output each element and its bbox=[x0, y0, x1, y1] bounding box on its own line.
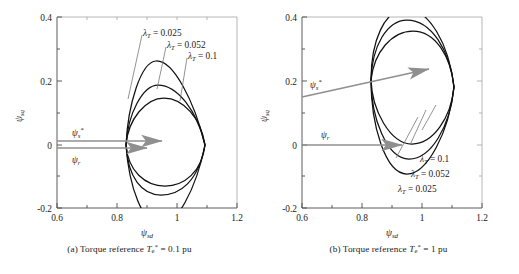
caption-prefix: (a) Torque reference bbox=[67, 244, 146, 254]
psi-sub: r bbox=[327, 134, 330, 141]
label-psi-r-a: ψr bbox=[72, 155, 81, 166]
x-tick-label: 0.6 bbox=[296, 213, 308, 223]
x-tick-label: 1.2 bbox=[231, 213, 243, 223]
y-tick-labels-b: 0.4 0.2 0 -0.2 bbox=[282, 13, 297, 214]
psi-sub: s bbox=[316, 84, 319, 91]
panel-b: 0.4 0.2 0 -0.2 0.6 0.8 1 1.2 ψsq ψsd bbox=[259, 0, 518, 274]
annotation-lambda-0052-b: λT = 0.052 bbox=[410, 169, 450, 180]
annotation-lambda-0025-a: λT = 0.025 bbox=[142, 28, 182, 39]
lambda-value: 0.1 bbox=[438, 154, 450, 164]
x-tick-label: 0.6 bbox=[51, 213, 63, 223]
y-axis-sub: sq bbox=[18, 109, 25, 116]
curve-lambda-0052-a bbox=[126, 85, 205, 195]
y-ticks-a bbox=[57, 17, 62, 208]
annotation-lambda-0025-b: λT = 0.025 bbox=[397, 184, 437, 195]
panel-a: 0.4 0.2 0 -0.2 0.6 0.8 1 1.2 ψsq ψsd bbox=[0, 0, 259, 274]
x-axis-sub: sd bbox=[147, 232, 154, 239]
y-axis-sub: sq bbox=[263, 109, 270, 116]
x-tick-label: 0.8 bbox=[356, 213, 368, 223]
caption-b: (b) Torque reference Te* = 1 pu bbox=[259, 243, 518, 254]
plot-a: 0.4 0.2 0 -0.2 0.6 0.8 1 1.2 ψsq ψsd bbox=[0, 0, 259, 243]
psi-sub: s bbox=[78, 132, 81, 139]
x-tick-label: 1 bbox=[175, 213, 180, 223]
x-tick-labels-b: 0.6 0.8 1 1.2 bbox=[296, 213, 488, 223]
lambda-value: 0.052 bbox=[185, 40, 206, 50]
caption-suffix: = 1 pu bbox=[421, 244, 448, 254]
lambda-value: 0.1 bbox=[206, 51, 218, 61]
y-tick-label: -0.2 bbox=[282, 204, 297, 214]
x-tick-label: 1.2 bbox=[476, 213, 488, 223]
y-tick-label: -0.2 bbox=[37, 204, 52, 214]
x-axis-title-a: ψsd bbox=[141, 227, 154, 239]
axis-frame-a bbox=[57, 17, 237, 208]
y-tick-labels-a: 0.4 0.2 0 -0.2 bbox=[37, 13, 52, 214]
label-psi-s-ref-a: ψs* bbox=[72, 126, 84, 140]
y-axis-title-a: ψsq bbox=[13, 109, 25, 122]
y-axis-title-b: ψsq bbox=[259, 109, 270, 122]
svg-text:ψsq: ψsq bbox=[259, 109, 270, 122]
x-ticks-top-a bbox=[87, 17, 207, 20]
y-tick-label: 0.4 bbox=[40, 13, 52, 23]
label-psi-r-b: ψr bbox=[321, 130, 330, 141]
x-ticks-b bbox=[302, 203, 482, 208]
plot-b: 0.4 0.2 0 -0.2 0.6 0.8 1 1.2 ψsq ψsd bbox=[259, 0, 518, 243]
annotation-lambda-01-a: λT = 0.1 bbox=[187, 51, 218, 62]
lambda-value: 0.025 bbox=[416, 184, 437, 194]
figure-flux-trajectories: 0.4 0.2 0 -0.2 0.6 0.8 1 1.2 ψsq ψsd bbox=[0, 0, 519, 274]
x-axis-sub: sd bbox=[392, 232, 399, 239]
annotation-lambda-01-b: λT = 0.1 bbox=[419, 154, 450, 165]
leader-lines-b bbox=[396, 105, 436, 158]
psi-sub: r bbox=[78, 159, 81, 166]
y-tick-label: 0 bbox=[292, 141, 297, 151]
x-tick-label: 0.8 bbox=[111, 213, 123, 223]
annotation-lambda-0052-a: λT = 0.052 bbox=[166, 40, 206, 51]
psi-sup: * bbox=[318, 78, 322, 85]
lambda-value: 0.025 bbox=[161, 28, 182, 38]
x-ticks-a bbox=[57, 203, 237, 208]
caption-a: (a) Torque reference Te* = 0.1 pu bbox=[0, 243, 259, 254]
svg-text:ψsq: ψsq bbox=[13, 109, 25, 122]
lambda-value: 0.052 bbox=[429, 169, 450, 179]
y-ticks-right-b bbox=[477, 49, 482, 176]
y-tick-label: 0.2 bbox=[285, 77, 297, 87]
caption-suffix: = 0.1 pu bbox=[158, 244, 192, 254]
caption-prefix: (b) Torque reference bbox=[330, 244, 410, 254]
y-ticks-b bbox=[302, 17, 307, 208]
y-tick-label: 0 bbox=[47, 141, 52, 151]
label-psi-s-ref-b: ψs* bbox=[310, 78, 322, 92]
x-tick-labels-a: 0.6 0.8 1 1.2 bbox=[51, 213, 243, 223]
curve-lambda-01-a bbox=[126, 98, 205, 186]
y-tick-label: 0.2 bbox=[40, 77, 52, 87]
y-tick-label: 0.4 bbox=[285, 13, 297, 23]
x-axis-title-b: ψsd bbox=[386, 227, 399, 239]
x-tick-label: 1 bbox=[420, 213, 425, 223]
axis-frame-b bbox=[302, 17, 482, 208]
psi-sup: * bbox=[80, 126, 84, 133]
